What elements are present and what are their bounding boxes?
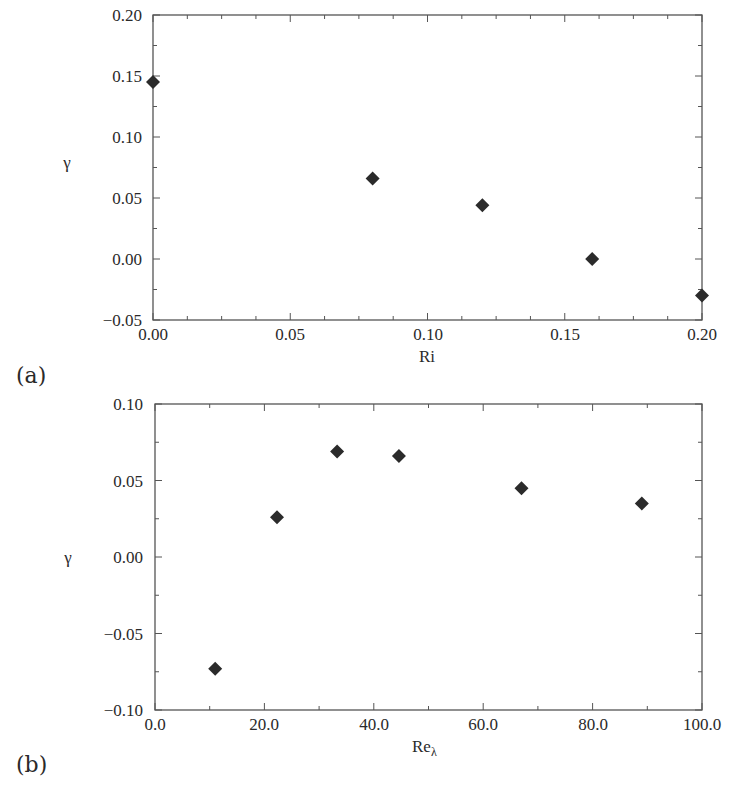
diamond-marker	[635, 496, 649, 510]
panel-b-label: (b)	[16, 752, 47, 777]
y-tick-label: −0.05	[103, 311, 142, 330]
x-tick-label: 20.0	[249, 715, 279, 734]
panel-a-ticks	[153, 15, 702, 320]
y-tick-label: 0.00	[112, 250, 142, 269]
x-tick-label: 0.00	[138, 325, 168, 344]
y-tick-label: −0.10	[104, 701, 143, 720]
panel-b-data-points	[208, 444, 649, 675]
diamond-marker	[475, 198, 489, 212]
x-tick-label: 60.0	[468, 715, 498, 734]
figure: 0.20 0.15 0.10 0.05 0.00 −0.05 0.00 0.05…	[0, 0, 731, 794]
panel-a-y-tick-labels: 0.20 0.15 0.10 0.05 0.00 −0.05	[103, 6, 142, 330]
y-tick-label: 0.10	[113, 395, 143, 414]
x-axis-label-subscript: λ	[431, 745, 437, 759]
y-tick-label: 0.00	[113, 548, 143, 567]
panel-a-plot-frame	[153, 15, 702, 320]
diamond-marker	[146, 75, 160, 89]
panel-b-x-axis-label: Reλ	[412, 737, 437, 759]
y-tick-label: 0.20	[112, 6, 142, 25]
panel-a-label: (a)	[16, 363, 46, 388]
panel-a-data-points	[146, 75, 709, 303]
diamond-marker	[514, 481, 528, 495]
x-axis-label-main: Re	[412, 737, 431, 756]
y-tick-label: 0.05	[113, 472, 143, 491]
x-tick-label: 0.05	[275, 325, 305, 344]
y-tick-label: 0.10	[112, 128, 142, 147]
panel-a-x-tick-labels: 0.00 0.05 0.10 0.15 0.20	[138, 325, 717, 344]
diamond-marker	[330, 444, 344, 458]
x-tick-label: 0.0	[144, 715, 165, 734]
y-tick-label: 0.05	[112, 189, 142, 208]
x-tick-label: 0.15	[550, 325, 580, 344]
x-tick-label: 40.0	[359, 715, 389, 734]
panel-b-y-axis-label: γ	[63, 548, 72, 567]
panel-a: 0.20 0.15 0.10 0.05 0.00 −0.05 0.00 0.05…	[16, 6, 717, 388]
panel-b-y-tick-labels: 0.10 0.05 0.00 −0.05 −0.10	[104, 395, 143, 720]
y-tick-label: 0.15	[112, 67, 142, 86]
diamond-marker	[270, 510, 284, 524]
panel-b-x-tick-labels: 0.0 20.0 40.0 60.0 80.0 100.0	[144, 715, 721, 734]
diamond-marker	[208, 662, 222, 676]
x-tick-label: 0.20	[687, 325, 717, 344]
panel-b: 0.10 0.05 0.00 −0.05 −0.10 0.0 20.0 40.0…	[16, 395, 721, 777]
diamond-marker	[366, 171, 380, 185]
x-tick-label: 100.0	[683, 715, 721, 734]
diamond-marker	[585, 252, 599, 266]
x-tick-label: 0.10	[413, 325, 443, 344]
diamond-marker	[695, 289, 709, 303]
panel-b-ticks	[155, 404, 702, 710]
x-tick-label: 80.0	[578, 715, 608, 734]
panel-b-plot-frame	[155, 404, 702, 710]
diamond-marker	[392, 449, 406, 463]
panel-a-y-axis-label: γ	[62, 153, 71, 172]
panel-a-x-axis-label: Ri	[419, 347, 435, 366]
y-tick-label: −0.05	[104, 625, 143, 644]
